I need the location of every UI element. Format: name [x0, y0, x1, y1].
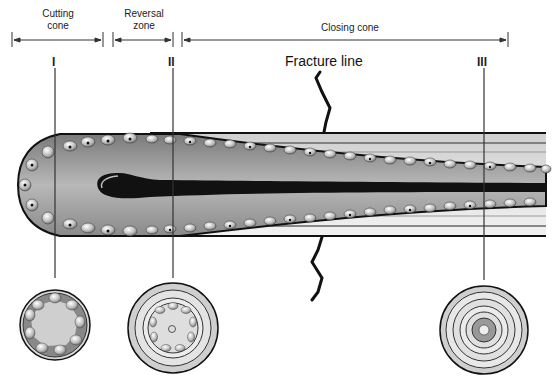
cross-section-I — [20, 290, 90, 360]
fracture-line — [316, 72, 330, 132]
fracture-line-label: Fracture line — [285, 53, 363, 69]
zone-label-line1: Closing cone — [321, 22, 379, 33]
zone-label-cutting-cone: Cutting cone — [20, 8, 96, 32]
zone-label-line2: cone — [20, 20, 96, 32]
section-marker-II: II — [168, 55, 175, 69]
zone-label-closing-cone: Closing cone — [290, 22, 410, 34]
zone-label-line1: Cutting — [20, 8, 96, 20]
dimension-lines — [12, 32, 508, 47]
diagram-canvas — [0, 0, 554, 379]
zone-label-reversal-zone: Reversal zone — [111, 8, 177, 32]
cross-section-II — [128, 283, 218, 373]
zone-label-line2: zone — [111, 20, 177, 32]
zone-label-line1: Reversal — [111, 8, 177, 20]
cross-section-III — [440, 286, 528, 374]
section-marker-I: I — [52, 55, 55, 69]
section-marker-III: III — [477, 55, 487, 69]
